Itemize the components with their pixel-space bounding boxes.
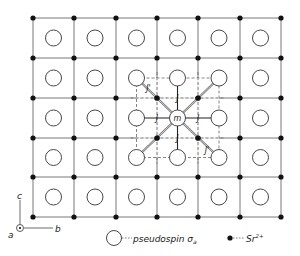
pseudospin-circle [211, 189, 227, 205]
pseudospin-circle [170, 150, 186, 166]
sr-ion-dot [71, 15, 76, 20]
pseudospin-circle [46, 189, 62, 205]
sr-ion-dot [237, 135, 242, 140]
sr-ion-dot [154, 15, 159, 20]
pseudospin-circle [211, 150, 227, 166]
pseudospin-circle [46, 150, 62, 166]
sr-ion-dot [30, 55, 35, 60]
pseudospin-circle [170, 70, 186, 86]
sr-ion-dot [71, 55, 76, 60]
sr-ion-dot [195, 95, 200, 100]
a-axis-dot-icon [19, 227, 21, 229]
pseudospin-circle [87, 189, 103, 205]
a-axis-label: a [8, 230, 14, 240]
pseudospin-circle [46, 30, 62, 46]
sr-ion-dot [71, 95, 76, 100]
sr-ion-dot [113, 174, 118, 179]
sr-ion-dot [195, 214, 200, 219]
j-prime-label-bottom-right: J' [203, 146, 210, 155]
lattice-diagram: mJJJJJ'J' c b a pseudospin σa Sr2+ [0, 0, 300, 256]
sr-ion-dot [154, 174, 159, 179]
pseudospin-circle [87, 70, 103, 86]
legend-sr-icon [227, 235, 232, 240]
legend: pseudospin σa Sr2+ [107, 231, 264, 246]
sr-ion-dot [278, 214, 283, 219]
sr-ion-dot [30, 95, 35, 100]
sr-ion-dot [154, 55, 159, 60]
sr-ion-dot [71, 214, 76, 219]
sr-ion-dot [113, 15, 118, 20]
sr-ion-dot [278, 174, 283, 179]
pseudospin-circle [211, 30, 227, 46]
sr-ion-dot [113, 95, 118, 100]
b-axis-label: b [55, 224, 61, 234]
sr-ion-dot [71, 174, 76, 179]
c-axis-label: c [17, 191, 22, 201]
pseudospin-circle [170, 189, 186, 205]
sr-ion-dot [71, 135, 76, 140]
sr-ion-dot [30, 174, 35, 179]
sr-ion-dot [113, 55, 118, 60]
pseudospin-circle [129, 150, 145, 166]
pseudospin-circle [253, 70, 269, 86]
sr-ion-dot [154, 95, 159, 100]
pseudospin-circle [46, 110, 62, 126]
pseudospin-circle [253, 110, 269, 126]
sr-ion-dot [278, 135, 283, 140]
pseudospin-circle [129, 110, 145, 126]
sr-ion-dot [237, 15, 242, 20]
pseudospin-circle [87, 150, 103, 166]
legend-pseudospin-label: pseudospin σa [132, 234, 197, 245]
sr-ion-dot [195, 135, 200, 140]
sr-ion-dot [154, 214, 159, 219]
sr-ion-dot [237, 174, 242, 179]
sr-ion-dot [237, 95, 242, 100]
pseudospin-circle [253, 30, 269, 46]
sr-ion-dot [30, 135, 35, 140]
legend-sr-label: Sr2+ [246, 233, 264, 244]
sr-ion-dot [30, 15, 35, 20]
sr-ion-dot [113, 214, 118, 219]
sr-ion-dot [237, 214, 242, 219]
sr-ion-dot [154, 135, 159, 140]
pseudospin-circle [46, 70, 62, 86]
sr-ion-dot [278, 55, 283, 60]
pseudospin-circle [170, 30, 186, 46]
sr-ion-dot [113, 135, 118, 140]
center-label-m: m [174, 114, 182, 123]
sr-ion-dot [195, 55, 200, 60]
pseudospin-circle [211, 110, 227, 126]
sr-ion-dot [278, 15, 283, 20]
legend-pseudospin-icon [107, 231, 122, 246]
pseudospin-circle [253, 189, 269, 205]
pseudospin-circle [129, 30, 145, 46]
pseudospin-circle [211, 70, 227, 86]
pseudospin-circle [129, 189, 145, 205]
sr-ion-dot [237, 55, 242, 60]
sr-ion-dot [278, 95, 283, 100]
sr-ion-dot [195, 15, 200, 20]
sr-ion-dot [30, 214, 35, 219]
pseudospin-circle [253, 150, 269, 166]
pseudospin-circle [87, 30, 103, 46]
pseudospin-circle [129, 70, 145, 86]
pseudospin-circle [87, 110, 103, 126]
sr-ion-dot [195, 174, 200, 179]
